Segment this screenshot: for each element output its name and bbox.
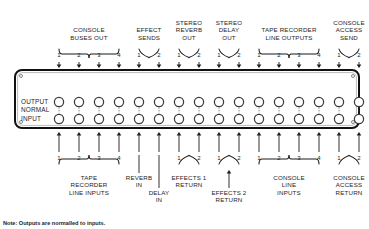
top-jack-number: 1	[134, 52, 144, 58]
top-jack-number: 1	[174, 52, 184, 58]
bottom-jack-number: 2	[194, 155, 204, 161]
top-jack-number: 2	[234, 52, 244, 58]
bottom-jack-number: 3	[294, 155, 304, 161]
bottom-jack-number: 1	[334, 155, 344, 161]
footer-note: Note: Outputs are normalled to inputs.	[3, 220, 105, 226]
bottom-jack-number: 1	[254, 155, 264, 161]
panel-row-label: NORMAL	[21, 107, 50, 113]
bottom-jack-number: 3	[94, 155, 104, 161]
panel-row-label: INPUT	[21, 116, 41, 122]
bottom-jack-number: 4	[314, 155, 324, 161]
top-jack-number: 4	[114, 52, 124, 58]
top-jack-number: 4	[314, 52, 324, 58]
top-jack-number: 2	[354, 52, 364, 58]
bottom-jack-number: 2	[234, 155, 244, 161]
top-jack-number: 2	[154, 52, 164, 58]
bottom-group-label: EFFECTS 1 RETURN	[149, 174, 229, 189]
bottom-jack-number: 1	[214, 155, 224, 161]
bottom-jack-number: 1	[174, 155, 184, 161]
top-jack-number: 1	[254, 52, 264, 58]
top-jack-number: 1	[54, 52, 64, 58]
bottom-jack-number: 2	[74, 155, 84, 161]
bottom-group-label: DELAY IN	[119, 189, 199, 204]
bottom-jack-number: 2	[274, 155, 284, 161]
bottom-arrow-group	[57, 132, 362, 152]
top-arrow-group	[57, 62, 362, 68]
top-jack-number: 2	[274, 52, 284, 58]
top-jack-number: 3	[294, 52, 304, 58]
bottom-jack-number: 1	[54, 155, 64, 161]
top-jack-number: 1	[214, 52, 224, 58]
top-jack-number: 2	[74, 52, 84, 58]
bottom-group-label: CONSOLE ACCESS RETURN	[309, 174, 369, 196]
panel-row-label: OUTPUT	[21, 99, 48, 105]
top-group-label: CONSOLE ACCESS SEND	[309, 19, 369, 41]
patchbay-diagram: CONSOLE BUSES OUTEFFECT SENDSSTEREO REVE…	[0, 0, 369, 229]
panel-body	[15, 70, 359, 128]
top-jack-number: 3	[94, 52, 104, 58]
top-jack-number: 1	[334, 52, 344, 58]
bottom-jack-number: 2	[354, 155, 364, 161]
bottom-jack-number: 4	[114, 155, 124, 161]
top-jack-number: 2	[194, 52, 204, 58]
